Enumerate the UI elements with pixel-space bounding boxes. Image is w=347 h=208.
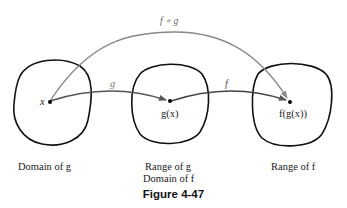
range-g-label: Range of g (145, 161, 191, 173)
range-f-label: Range of f (271, 161, 315, 173)
g-label: g (110, 78, 115, 90)
point-x (48, 100, 52, 104)
fgx-label: f(g(x)) (279, 108, 307, 120)
range-f-set (252, 64, 331, 146)
domain-f-label: Domain of f (143, 173, 194, 185)
composite-arrow (50, 32, 287, 101)
composition-label: f ∘ g (160, 15, 178, 27)
domain-g-label: Domain of g (18, 161, 71, 173)
domain-g-set (14, 60, 92, 145)
range-g-set (132, 64, 209, 143)
f-label: f (225, 78, 228, 90)
gx-label: g(x) (161, 108, 179, 120)
point-fgx (288, 100, 292, 104)
point-gx (168, 99, 172, 103)
f-arrow (171, 91, 286, 101)
x-label: x (40, 96, 45, 108)
figure-caption: Figure 4-47 (0, 188, 347, 200)
g-arrow (50, 91, 166, 101)
